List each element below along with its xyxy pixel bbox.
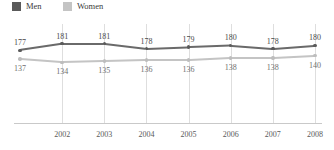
data-point-women[interactable] <box>60 61 63 64</box>
data-point-men[interactable] <box>313 44 316 47</box>
value-label-men: 181 <box>56 32 68 41</box>
series-segment-men <box>146 46 188 49</box>
x-axis-line <box>14 123 322 124</box>
series-segment-women <box>189 57 231 61</box>
value-label-women: 138 <box>225 63 237 72</box>
value-label-women: 137 <box>14 64 26 73</box>
plot-area: 1771811811781791801781801371341351361361… <box>0 18 334 150</box>
legend-swatch-men <box>12 2 21 11</box>
value-label-men: 179 <box>183 35 195 44</box>
series-segment-women <box>273 55 315 59</box>
legend-swatch-women <box>63 2 72 11</box>
data-point-men[interactable] <box>103 42 106 45</box>
value-label-women: 135 <box>98 66 110 75</box>
series-segment-women <box>231 57 273 59</box>
data-point-men[interactable] <box>18 49 21 52</box>
value-label-men: 180 <box>225 33 237 42</box>
chart-legend: Men Women <box>0 0 334 18</box>
line-chart: Men Women 177181181178179180178180137134… <box>0 0 334 150</box>
data-point-women[interactable] <box>18 57 21 60</box>
value-label-men: 177 <box>14 38 26 47</box>
legend-label-men: Men <box>26 2 42 11</box>
data-point-women[interactable] <box>271 56 274 59</box>
legend-item-women[interactable]: Women <box>63 2 103 11</box>
data-point-men[interactable] <box>271 47 274 50</box>
value-label-women: 136 <box>183 65 195 74</box>
series-segment-women <box>62 60 104 63</box>
x-tick-2004: 2004 <box>138 130 154 139</box>
data-point-women[interactable] <box>187 58 190 61</box>
value-label-women: 136 <box>140 65 152 74</box>
series-segment-men <box>273 45 315 50</box>
value-label-men: 180 <box>309 33 321 42</box>
value-label-men: 181 <box>98 32 110 41</box>
data-point-men[interactable] <box>60 42 63 45</box>
value-label-women: 140 <box>309 61 321 70</box>
series-segment-men <box>62 43 104 45</box>
legend-item-men[interactable]: Men <box>12 2 42 11</box>
x-tick-2002: 2002 <box>54 130 70 139</box>
series-segment-women <box>146 59 188 61</box>
data-point-women[interactable] <box>103 59 106 62</box>
x-tick-2003: 2003 <box>96 130 112 139</box>
value-label-women: 134 <box>56 67 68 76</box>
value-label-women: 138 <box>267 63 279 72</box>
value-label-men: 178 <box>267 37 279 46</box>
data-point-men[interactable] <box>187 45 190 48</box>
value-label-men: 178 <box>140 37 152 46</box>
series-segment-men <box>20 43 62 51</box>
x-tick-2006: 2006 <box>223 130 239 139</box>
data-point-men[interactable] <box>145 47 148 50</box>
x-tick-2007: 2007 <box>265 130 281 139</box>
data-point-women[interactable] <box>229 56 232 59</box>
series-segment-women <box>104 59 146 62</box>
data-point-women[interactable] <box>145 58 148 61</box>
data-point-women[interactable] <box>313 54 316 57</box>
x-tick-2005: 2005 <box>181 130 197 139</box>
x-tick-2008: 2008 <box>307 130 323 139</box>
series-segment-men <box>189 45 231 48</box>
series-segment-women <box>20 58 62 63</box>
legend-label-women: Women <box>77 2 103 11</box>
